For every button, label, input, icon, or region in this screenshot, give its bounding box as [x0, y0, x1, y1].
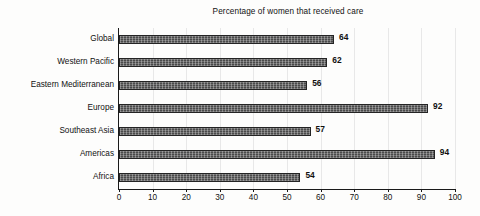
gridline	[455, 28, 456, 189]
chart-title: Percentage of women that received care	[0, 7, 480, 16]
x-tick-mark	[119, 189, 120, 192]
x-tick-label: 40	[238, 193, 268, 202]
bar-row: 92	[119, 97, 455, 120]
category-label: Africa	[2, 172, 114, 181]
bar[interactable]	[119, 150, 435, 159]
bar-value-label: 54	[305, 170, 314, 180]
x-tick-label: 70	[339, 193, 369, 202]
bar[interactable]	[119, 58, 327, 67]
x-tick-label: 60	[306, 193, 336, 202]
bar-value-label: 57	[316, 124, 325, 134]
x-tick-label: 80	[373, 193, 403, 202]
x-tick-mark	[388, 189, 389, 192]
category-label: Europe	[2, 103, 114, 112]
category-label: Global	[2, 34, 114, 43]
category-label: Western Pacific	[2, 57, 114, 66]
x-tick-mark	[421, 189, 422, 192]
bar[interactable]	[119, 173, 300, 182]
bar[interactable]	[119, 127, 311, 136]
bar-value-label: 62	[332, 55, 341, 65]
x-tick-mark	[220, 189, 221, 192]
x-tick-mark	[455, 189, 456, 192]
x-tick-label: 100	[440, 193, 470, 202]
bar-row: 57	[119, 120, 455, 143]
category-label: Americas	[2, 149, 114, 158]
x-tick-label: 30	[205, 193, 235, 202]
x-tick-mark	[321, 189, 322, 192]
bar-row: 56	[119, 74, 455, 97]
x-tick-mark	[287, 189, 288, 192]
bar-value-label: 56	[312, 78, 321, 88]
x-tick-label: 50	[272, 193, 302, 202]
x-tick-label: 10	[138, 193, 168, 202]
x-tick-mark	[186, 189, 187, 192]
x-tick-label: 0	[104, 193, 134, 202]
chart-page: Percentage of women that received care 6…	[0, 0, 480, 216]
bar-row: 94	[119, 143, 455, 166]
bar-value-label: 64	[339, 32, 348, 42]
chart-title-text: Percentage of women that received care	[213, 7, 364, 16]
x-tick-mark	[253, 189, 254, 192]
x-tick-label: 90	[406, 193, 436, 202]
x-tick-mark	[354, 189, 355, 192]
bar-value-label: 92	[433, 101, 442, 111]
category-label: Southeast Asia	[2, 126, 114, 135]
bar-value-label: 94	[440, 147, 449, 157]
bar[interactable]	[119, 104, 428, 113]
bar[interactable]	[119, 81, 307, 90]
x-tick-label: 20	[171, 193, 201, 202]
category-label: Eastern Mediterranean	[2, 80, 114, 89]
bar-row: 62	[119, 51, 455, 74]
bar[interactable]	[119, 35, 334, 44]
x-tick-mark	[153, 189, 154, 192]
plot-area: 64625692579454	[119, 28, 455, 189]
bar-row: 54	[119, 166, 455, 189]
bar-row: 64	[119, 28, 455, 51]
